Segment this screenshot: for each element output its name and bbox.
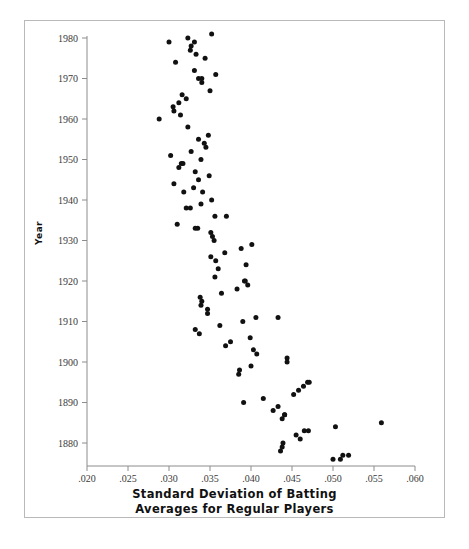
data-point — [206, 133, 211, 138]
data-point — [379, 420, 384, 425]
data-point — [346, 453, 351, 458]
data-point — [213, 72, 218, 77]
y-tick-label: 1980 — [58, 33, 78, 44]
data-point — [205, 307, 210, 312]
y-axis-title: Year — [34, 188, 44, 278]
data-point — [184, 206, 189, 211]
data-point — [261, 396, 266, 401]
scatter-plot: 1880189019001910192019301940195019601970… — [0, 0, 469, 549]
data-point — [228, 339, 233, 344]
data-point — [307, 380, 312, 385]
data-point — [282, 412, 287, 417]
data-point — [178, 112, 183, 117]
y-tick-label: 1900 — [58, 357, 78, 368]
data-point — [198, 157, 203, 162]
data-point — [171, 181, 176, 186]
data-point — [285, 355, 290, 360]
data-point — [212, 214, 217, 219]
data-point — [224, 214, 229, 219]
x-tick-label: .035 — [201, 473, 219, 484]
data-point — [189, 149, 194, 154]
data-point — [276, 404, 281, 409]
data-point — [180, 92, 185, 97]
data-point — [249, 364, 254, 369]
data-point — [189, 44, 194, 49]
data-point — [331, 457, 336, 462]
data-point — [208, 254, 213, 259]
data-point — [271, 408, 276, 413]
data-point — [219, 291, 224, 296]
data-point — [203, 56, 208, 61]
data-point — [192, 40, 197, 45]
data-point — [180, 161, 185, 166]
data-point — [301, 384, 306, 389]
data-point — [191, 185, 196, 190]
x-axis-title-line2: Averages for Regular Players — [24, 502, 445, 517]
data-point — [244, 262, 249, 267]
data-point — [306, 428, 311, 433]
data-point — [294, 432, 299, 437]
figure-root: 1880189019001910192019301940195019601970… — [0, 0, 469, 549]
data-point — [175, 222, 180, 227]
data-point — [198, 202, 203, 207]
data-point — [216, 266, 221, 271]
data-point — [198, 295, 203, 300]
y-tick-label: 1880 — [58, 438, 78, 449]
y-tick-label: 1970 — [58, 73, 78, 84]
data-point — [200, 189, 205, 194]
data-point — [239, 246, 244, 251]
data-point — [168, 153, 173, 158]
data-point — [276, 315, 281, 320]
x-tick-label: .030 — [160, 473, 178, 484]
data-point — [240, 319, 245, 324]
data-point — [340, 453, 345, 458]
y-tick-label: 1940 — [58, 195, 78, 206]
data-point — [171, 104, 176, 109]
data-point — [235, 287, 240, 292]
y-tick-label: 1930 — [58, 235, 78, 246]
y-tick-label: 1910 — [58, 316, 78, 327]
data-point — [208, 230, 213, 235]
data-point — [207, 173, 212, 178]
data-point — [167, 40, 172, 45]
x-tick-label: .045 — [283, 473, 301, 484]
data-point — [251, 347, 256, 352]
x-axis-title: Standard Deviation of Batting Averages f… — [24, 487, 445, 517]
data-point — [196, 137, 201, 142]
x-axis-title-line1: Standard Deviation of Batting — [24, 487, 445, 502]
data-point — [184, 96, 189, 101]
data-point — [223, 343, 228, 348]
data-points-group — [157, 31, 384, 461]
x-tick-label: .020 — [78, 473, 96, 484]
data-point — [213, 258, 218, 263]
data-point — [333, 424, 338, 429]
data-point — [254, 351, 259, 356]
data-point — [192, 68, 197, 73]
data-point — [173, 60, 178, 65]
data-point — [196, 177, 201, 182]
x-tick-label: .040 — [242, 473, 260, 484]
data-point — [249, 242, 254, 247]
data-point — [217, 323, 222, 328]
y-tick-label: 1920 — [58, 276, 78, 287]
data-point — [185, 125, 190, 130]
data-point — [194, 52, 199, 57]
data-point — [202, 141, 207, 146]
data-point — [212, 274, 217, 279]
data-point — [197, 331, 202, 336]
data-point — [157, 117, 162, 122]
x-tick-label: .050 — [324, 473, 342, 484]
data-point — [193, 169, 198, 174]
data-point — [222, 250, 227, 255]
data-point — [241, 400, 246, 405]
x-tick-label: .060 — [406, 473, 424, 484]
data-point — [208, 88, 213, 93]
data-point — [176, 100, 181, 105]
axes-group — [82, 36, 415, 471]
data-point — [209, 31, 214, 36]
data-point — [298, 436, 303, 441]
data-point — [243, 279, 248, 284]
y-tick-label: 1890 — [58, 397, 78, 408]
y-tick-label: 1960 — [58, 114, 78, 125]
y-tick-label: 1950 — [58, 154, 78, 165]
